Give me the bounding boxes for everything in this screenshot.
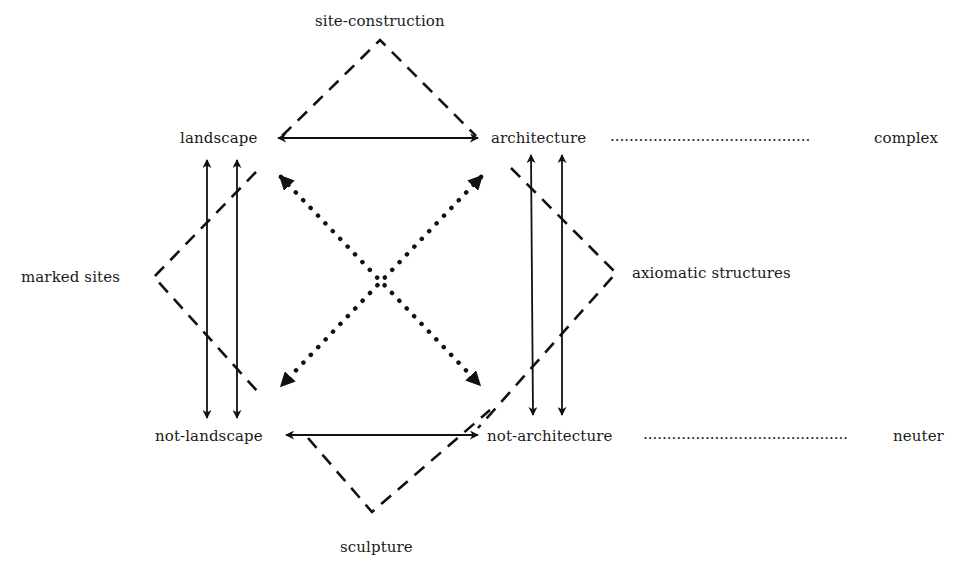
- architecture-not-architecture-arrow-1: [531, 155, 533, 415]
- label-site-construction: site-construction: [315, 12, 445, 30]
- label-neuter: neuter: [893, 427, 944, 445]
- label-marked-sites: marked sites: [21, 268, 120, 286]
- marked-sites-dashed-connector: [154, 172, 258, 392]
- leader-dots-neuter: ........................................…: [643, 425, 881, 443]
- label-landscape: landscape: [180, 129, 257, 147]
- site-construction-dashed-connector: [282, 40, 476, 136]
- label-not-architecture: not-architecture: [487, 427, 612, 445]
- leader-dots-complex: ........................................…: [610, 127, 864, 145]
- label-not-landscape: not-landscape: [155, 427, 263, 445]
- label-complex: complex: [874, 129, 938, 147]
- sculpture-dashed-connector: [308, 410, 490, 512]
- label-sculpture: sculpture: [340, 538, 413, 556]
- label-architecture: architecture: [491, 129, 586, 147]
- diagram-canvas: [0, 0, 971, 568]
- label-axiomatic-structures: axiomatic structures: [632, 264, 791, 282]
- axiomatic-structures-dashed-connector: [478, 168, 616, 428]
